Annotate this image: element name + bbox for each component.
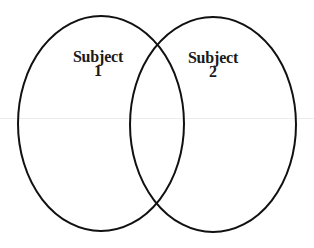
subject-2-number: 2 — [173, 65, 253, 79]
venn-shapes — [0, 0, 314, 248]
subject-1-label: Subject 1 — [58, 50, 138, 78]
subject-2-label: Subject 2 — [173, 51, 253, 79]
subject-1-number: 1 — [58, 64, 138, 78]
venn-diagram: Subject 1 Subject 2 — [0, 0, 314, 248]
